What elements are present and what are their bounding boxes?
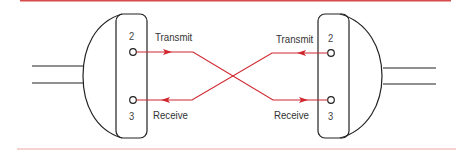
crossover-wires xyxy=(137,52,328,100)
left-pin-2-number: 2 xyxy=(129,30,134,42)
right-receive-label: Receive xyxy=(274,109,309,121)
right-connector xyxy=(318,14,436,138)
left-transmit-label: Transmit xyxy=(155,31,192,43)
left-pin-2-icon xyxy=(130,49,137,56)
right-pin-3-number: 3 xyxy=(328,110,333,122)
right-pin-2-icon xyxy=(328,50,335,57)
wire-right-transmit-to-left-receive xyxy=(137,53,328,100)
right-connector-dome xyxy=(340,14,382,138)
left-pin-3-number: 3 xyxy=(129,110,134,122)
right-connector-face xyxy=(318,14,349,138)
right-pin-3-icon xyxy=(328,97,335,104)
left-receive-label: Receive xyxy=(153,109,188,121)
crossover-diagram: 2 3 Transmit Receive 2 3 Transmit Receiv… xyxy=(0,0,464,153)
right-transmit-label: Transmit xyxy=(276,33,313,45)
right-pin-2-number: 2 xyxy=(328,32,333,44)
left-pin-3-icon xyxy=(130,97,137,104)
